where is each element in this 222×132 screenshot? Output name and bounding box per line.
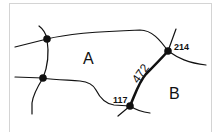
node-label-214: 214	[174, 42, 189, 52]
boundary-top	[15, 30, 168, 51]
region-label-b: B	[169, 85, 180, 102]
region-label-a: A	[83, 50, 94, 67]
boundary-n1-n2	[43, 39, 48, 78]
node-214	[164, 47, 172, 55]
boundary-n2-down	[32, 78, 43, 114]
node-junction-2	[39, 74, 47, 82]
edge-length-label: 472	[129, 61, 152, 86]
boundary-left-n2	[15, 77, 43, 78]
parcel-map: A B 214 117 472	[0, 0, 222, 132]
node-label-117: 117	[113, 95, 128, 105]
boundary-214-right	[168, 51, 206, 65]
node-junction-1	[43, 35, 51, 43]
